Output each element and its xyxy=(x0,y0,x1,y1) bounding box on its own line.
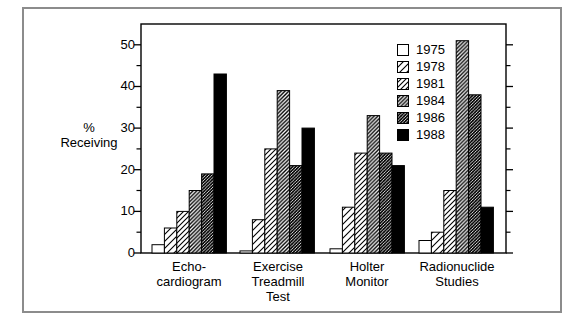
bar-1981 xyxy=(444,191,456,254)
legend-item-1978: 1978 xyxy=(397,58,445,75)
bar-1978 xyxy=(342,207,354,253)
bar-1975 xyxy=(240,251,252,253)
y-tick-label-50: 50 xyxy=(99,37,135,53)
screenshot-root: % Receiving 50 40 30 20 10 0 Echo- cardi… xyxy=(0,0,575,328)
bar-1986 xyxy=(380,153,392,253)
legend-label-1984: 1984 xyxy=(416,94,445,107)
legend-item-1975: 1975 xyxy=(397,41,445,58)
legend-swatch-1975 xyxy=(397,44,409,56)
bar-1981 xyxy=(265,149,277,253)
y-tick-label-0: 0 xyxy=(99,245,135,261)
legend-item-1986: 1986 xyxy=(397,109,445,126)
legend-swatch-1978 xyxy=(397,61,409,73)
legend-item-1988: 1988 xyxy=(397,126,445,143)
category-label-radionuclide: Radionuclide Studies xyxy=(402,259,512,289)
bar-1978 xyxy=(431,232,443,253)
legend: 1975 1978 1981 1984 1986 1988 xyxy=(397,41,445,143)
bar-1986 xyxy=(290,166,302,253)
bar-1978 xyxy=(252,220,264,253)
bar-1984 xyxy=(189,191,201,254)
bar-1978 xyxy=(164,228,176,253)
legend-label-1988: 1988 xyxy=(416,128,445,141)
y-tick-label-30: 30 xyxy=(99,120,135,136)
legend-swatch-1988 xyxy=(397,129,409,141)
bar-1981 xyxy=(177,211,189,253)
legend-label-1981: 1981 xyxy=(416,77,445,90)
y-tick-label-10: 10 xyxy=(99,203,135,219)
bar-1986 xyxy=(202,174,214,253)
y-tick-label-40: 40 xyxy=(99,78,135,94)
legend-item-1981: 1981 xyxy=(397,75,445,92)
legend-label-1978: 1978 xyxy=(416,60,445,73)
y-tick-label-20: 20 xyxy=(99,162,135,178)
bar-1988 xyxy=(392,166,404,253)
bar-1986 xyxy=(469,95,481,253)
legend-swatch-1986 xyxy=(397,112,409,124)
bar-1975 xyxy=(152,245,164,253)
bar-1988 xyxy=(481,207,493,253)
bar-1984 xyxy=(277,91,289,253)
legend-item-1984: 1984 xyxy=(397,92,445,109)
legend-swatch-1981 xyxy=(397,78,409,90)
bar-1988 xyxy=(214,74,226,253)
bar-1981 xyxy=(355,153,367,253)
bar-1975 xyxy=(330,249,342,253)
bar-1984 xyxy=(456,41,468,253)
legend-label-1975: 1975 xyxy=(416,43,445,56)
bar-1975 xyxy=(419,241,431,254)
legend-swatch-1984 xyxy=(397,95,409,107)
bar-1984 xyxy=(367,116,379,253)
bar-1988 xyxy=(302,128,314,253)
legend-label-1986: 1986 xyxy=(416,111,445,124)
y-axis-title-line2: Receiving xyxy=(52,135,126,150)
